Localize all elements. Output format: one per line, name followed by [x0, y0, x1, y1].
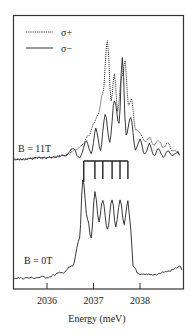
label-b-0t: B = 0T: [24, 255, 52, 266]
x-tick-label: 2038: [130, 295, 150, 306]
x-axis: 203620372038: [37, 283, 150, 306]
x-axis-label: Energy (meV): [68, 313, 125, 325]
legend-label-sigma-minus: σ−: [61, 43, 72, 54]
legend-label-sigma-plus: σ+: [61, 27, 72, 38]
label-b-11t: B = 11T: [18, 143, 51, 154]
comb-marker: [84, 161, 128, 182]
x-tick-label: 2037: [84, 295, 104, 306]
x-tick-label: 2036: [37, 295, 57, 306]
series-layer: [13, 41, 182, 279]
spectrum-chart: σ+ σ− B = 11T B = 0T 203620372038 Energy…: [0, 0, 193, 333]
legend: σ+ σ−: [26, 27, 72, 54]
